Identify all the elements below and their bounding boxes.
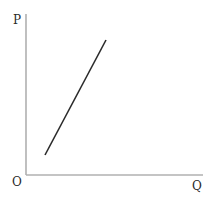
price-quantity-chart: P O Q bbox=[0, 0, 213, 197]
x-axis-label: Q bbox=[192, 180, 202, 192]
curve-line bbox=[45, 40, 106, 155]
y-axis-label: P bbox=[13, 14, 21, 26]
chart-canvas bbox=[0, 0, 213, 197]
origin-label: O bbox=[12, 176, 22, 188]
